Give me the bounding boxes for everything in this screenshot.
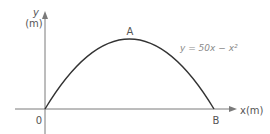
x-axis-label: x(m) [240, 105, 264, 116]
root-label-b: B [213, 115, 220, 126]
projectile-diagram: y (m) 0 A B x(m) y = 50x − x² [0, 0, 270, 134]
equation-label: y = 50x − x² [179, 43, 238, 53]
vertex-label-a: A [127, 26, 134, 37]
origin-label: 0 [36, 115, 42, 126]
y-axis-arrow-icon [42, 11, 48, 19]
y-axis-unit: (m) [25, 18, 43, 29]
y-axis-label: y [32, 7, 40, 18]
x-axis-arrow-icon [229, 106, 237, 112]
